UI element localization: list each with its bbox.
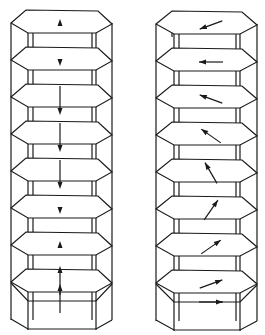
hexagon-plate bbox=[156, 11, 257, 34]
hexagon-plate bbox=[156, 159, 257, 182]
layer-2 bbox=[156, 48, 257, 71]
layer-6 bbox=[11, 195, 112, 218]
layer-1 bbox=[156, 11, 257, 34]
hexagon-bottom bbox=[156, 320, 257, 330]
hexagon-plate bbox=[156, 233, 257, 256]
hexagon-plate bbox=[156, 270, 257, 293]
layer-6 bbox=[156, 196, 257, 220]
layer-4 bbox=[156, 122, 257, 145]
hexagon-plate bbox=[11, 47, 112, 70]
moment-arrow-icon bbox=[199, 300, 223, 305]
hexagon-bottom bbox=[11, 319, 112, 329]
layer-5 bbox=[156, 159, 257, 183]
hexagon-plate bbox=[11, 84, 112, 107]
layer-7 bbox=[156, 233, 257, 256]
hexagon-plate bbox=[11, 10, 112, 33]
layer-3 bbox=[11, 84, 112, 115]
layer-2 bbox=[11, 47, 112, 70]
left-column bbox=[11, 10, 112, 330]
layer-8 bbox=[156, 270, 257, 293]
hexagon-plate bbox=[11, 195, 112, 218]
hexagon-plate bbox=[11, 121, 112, 144]
hexagon-plate bbox=[11, 158, 112, 181]
right-column bbox=[156, 11, 257, 331]
layer-4 bbox=[11, 121, 112, 152]
layer-7 bbox=[11, 232, 112, 255]
hexagon-plate bbox=[156, 48, 257, 71]
crystal-stack-diagram bbox=[0, 0, 265, 335]
layer-5 bbox=[11, 158, 112, 189]
layer-3 bbox=[156, 85, 257, 108]
hexagon-plate bbox=[11, 232, 112, 255]
layer-1 bbox=[11, 10, 112, 33]
